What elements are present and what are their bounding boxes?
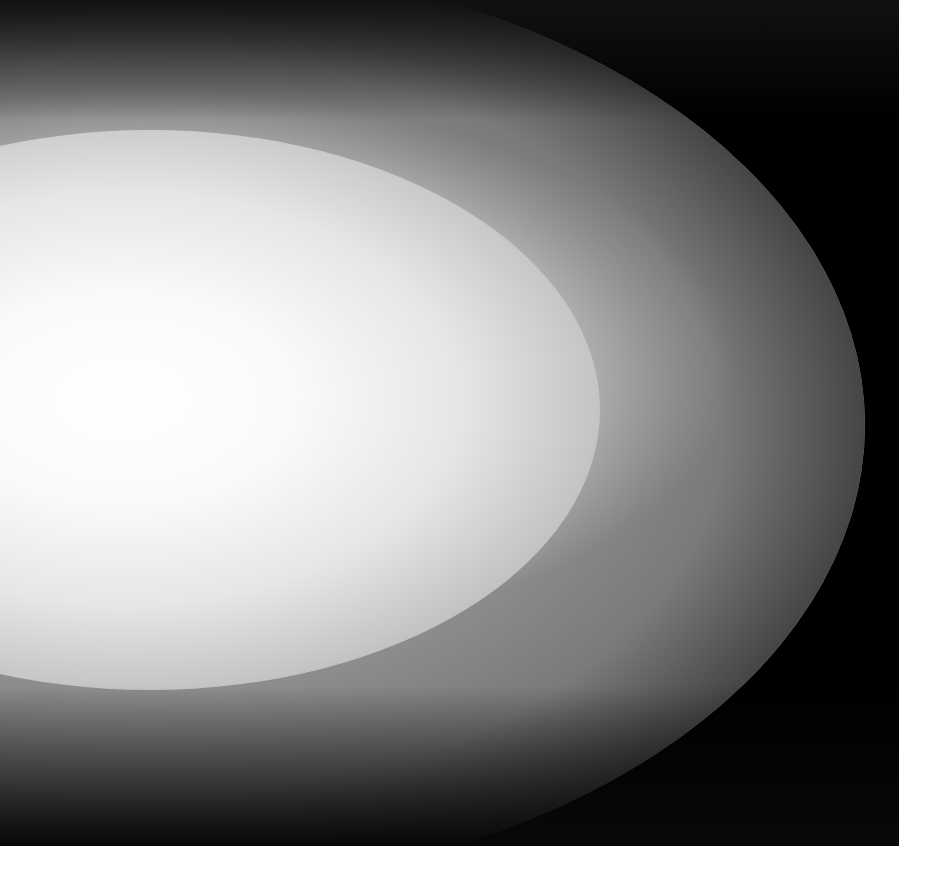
bottom-shadow — [0, 686, 899, 846]
top-shadow — [0, 0, 899, 120]
photo-frame — [0, 0, 899, 846]
